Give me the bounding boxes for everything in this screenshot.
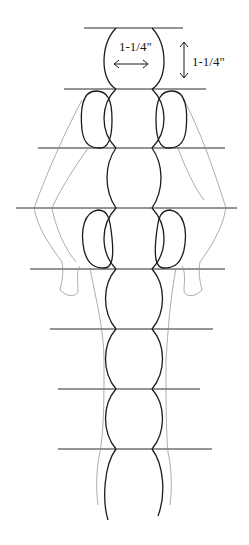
right-arm-outline: [182, 100, 226, 296]
figure-outline: [34, 100, 226, 505]
middle-right-pad: [155, 210, 185, 268]
pattern-diagram: 1-1/4" 1-1/4": [0, 0, 249, 545]
head-segment: [104, 28, 164, 89]
width-dimension-label: 1-1/4": [119, 40, 152, 53]
body-segment-1: [104, 89, 164, 148]
body-segment-2: [107, 148, 161, 208]
right-leg-outline: [166, 268, 176, 505]
body-segment-7: [105, 449, 163, 520]
right-arm-inner-outline: [178, 148, 204, 200]
upper-right-pad: [156, 91, 187, 148]
body-segments: [104, 89, 164, 520]
left-arm-outline: [34, 100, 82, 296]
body-segment-4: [106, 269, 163, 329]
width-dimension-arrow: [114, 60, 148, 68]
height-dimension-label: 1-1/4": [192, 55, 225, 68]
side-pads: [81, 91, 186, 268]
height-dimension-arrow: [180, 42, 188, 78]
body-segment-3: [104, 208, 164, 269]
guide-lines: [16, 28, 237, 449]
middle-left-pad: [83, 210, 113, 268]
diagram-canvas: [0, 0, 249, 545]
left-leg-outline: [90, 268, 104, 505]
body-segment-5: [106, 329, 163, 389]
body-segment-6: [106, 389, 163, 449]
upper-left-pad: [81, 91, 112, 148]
